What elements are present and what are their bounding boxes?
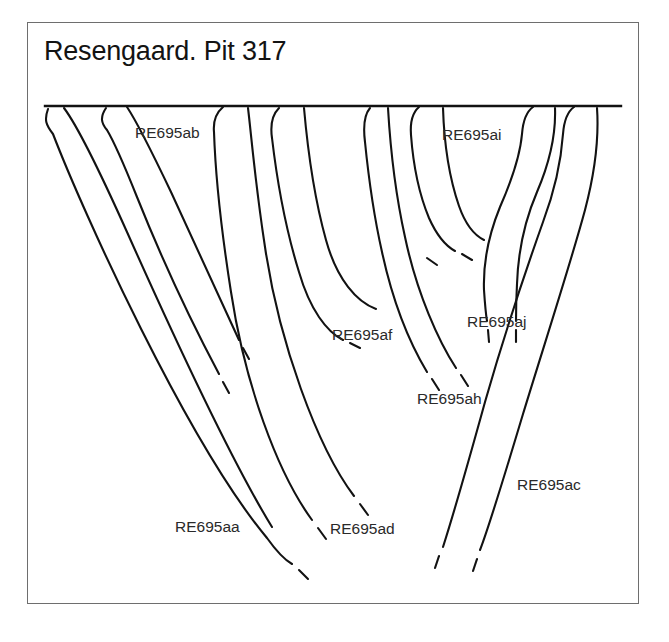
stake-re695ab-inner-edge	[127, 107, 249, 359]
stake-re695ah-inner-edge	[388, 108, 468, 386]
feature-label-af: RE695af	[332, 326, 393, 343]
stake-re695ad-inner-edge	[248, 108, 368, 515]
stake-re695aa-inner-edge	[64, 108, 272, 527]
archaeology-section-figure: Resengaard. Pit 317 RE695abRE695aiRE695a…	[0, 0, 669, 642]
stake-re695aa-tip-dash	[299, 570, 308, 579]
stake-re695ai-tip-dash	[462, 254, 472, 260]
stake-re695ah-inner-edge-tip-dash	[461, 375, 468, 386]
stake-re695ad-inner-edge-outline	[248, 108, 354, 496]
stake-re695ah	[364, 108, 439, 390]
stake-re695ac-tip-dash	[435, 556, 439, 568]
feature-labels-group: RE695abRE695aiRE695afRE695ajRE695ahRE695…	[135, 124, 581, 537]
feature-label-ad: RE695ad	[330, 520, 395, 537]
stake-re695af-tip-dash	[350, 343, 360, 348]
stake-re695aa-inner-edge-outline	[64, 108, 272, 527]
feature-label-ai: RE695ai	[442, 126, 501, 143]
stake-re695ab	[102, 108, 229, 393]
stake-re695ab-outline	[102, 108, 219, 374]
stake-re695ac-inner-edge-tip-dash	[473, 559, 477, 571]
stake-re695aj-tip-dash	[488, 330, 489, 342]
stake-profiles-group	[46, 107, 598, 579]
stake-re695ai-inner-edge-tip-dash	[427, 258, 437, 265]
section-drawing-canvas: RE695abRE695aiRE695afRE695ajRE695ahRE695…	[27, 22, 639, 604]
feature-label-ab: RE695ab	[135, 124, 200, 141]
feature-label-aa: RE695aa	[175, 518, 240, 535]
stake-re695ad-inner-edge-tip-dash	[360, 504, 368, 515]
feature-label-ah: RE695ah	[417, 390, 482, 407]
stake-re695ab-tip-dash	[223, 382, 229, 393]
stake-re695ad-tip-dash	[318, 528, 326, 539]
feature-label-aj: RE695aj	[467, 313, 526, 330]
stake-re695ad-outline	[214, 107, 312, 520]
feature-label-ac: RE695ac	[517, 476, 581, 493]
stake-re695ac-inner-edge	[473, 108, 598, 571]
stake-re695ac	[435, 107, 574, 568]
stake-re695ah-tip-dash	[432, 379, 439, 390]
stake-re695af	[271, 108, 360, 348]
